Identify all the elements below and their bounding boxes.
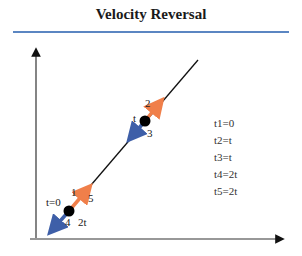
- label-t: t: [133, 112, 136, 124]
- label-4: 4: [65, 216, 71, 228]
- label-3: 3: [147, 127, 153, 139]
- time-legend: t1=0 t2=t t3=t t4=2t t5=2t: [214, 115, 237, 200]
- label-1: 1: [71, 186, 77, 198]
- point-t: [140, 116, 151, 127]
- legend-item: t2=t: [214, 132, 237, 149]
- diagram-canvas: t=0 1 5 4 2t t 2 3: [0, 0, 302, 256]
- label-5: 5: [88, 192, 94, 204]
- legend-item: t4=2t: [214, 166, 237, 183]
- legend-item: t5=2t: [214, 183, 237, 200]
- point-t0: [64, 206, 75, 217]
- label-2t: 2t: [78, 216, 87, 228]
- legend-item: t3=t: [214, 149, 237, 166]
- legend-item: t1=0: [214, 115, 237, 132]
- label-2: 2: [145, 97, 151, 109]
- label-t0: t=0: [46, 196, 61, 208]
